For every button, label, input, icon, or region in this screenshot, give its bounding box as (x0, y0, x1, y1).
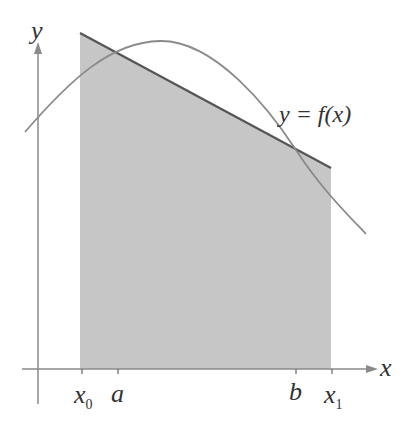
tick-label-x1: x1 (324, 382, 343, 408)
tick-label-b: b (289, 379, 302, 405)
tick-label-x1-sub: 1 (336, 397, 343, 412)
x-axis-arrow-icon (366, 365, 378, 373)
shaded-trapezoid (80, 33, 331, 369)
tick-label-a: a (111, 381, 124, 407)
x-axis-label: x (380, 355, 392, 381)
diagram-canvas (0, 0, 413, 429)
y-axis-label: y (31, 18, 43, 44)
diagram: y x y = f(x) x0 a b x1 (0, 0, 413, 429)
tick-label-x0-sub: 0 (86, 397, 93, 412)
tick-label-x0: x0 (74, 382, 93, 408)
tick-label-x0-base: x (74, 380, 86, 409)
curve-label: y = f(x) (279, 102, 351, 126)
tick-label-x1-base: x (324, 380, 336, 409)
